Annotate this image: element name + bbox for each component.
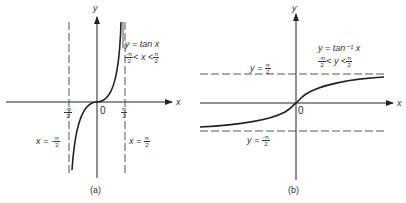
function-label-b: y = tan⁻¹ x bbox=[318, 44, 360, 53]
tick-left-a: -π2 bbox=[64, 106, 72, 119]
diagram-canvas bbox=[0, 0, 406, 203]
panel-b-graph bbox=[200, 14, 393, 180]
y-axis-label-b: y bbox=[292, 4, 297, 13]
asymptote-bottom-label-b: y = -π2 bbox=[247, 134, 270, 147]
arctan-curve bbox=[200, 77, 384, 127]
asymptote-top-label-b: y = π2 bbox=[250, 62, 271, 75]
origin-label-b: 0 bbox=[298, 106, 304, 116]
x-axis-label-a: x bbox=[176, 98, 181, 107]
asymptote-right-label-a: x = π2 bbox=[129, 135, 150, 148]
domain-label-b: -π2< y <π2 bbox=[318, 55, 352, 68]
tick-right-a: π2 bbox=[121, 106, 127, 119]
domain-label-a: -π2< x <π2 bbox=[125, 51, 159, 64]
caption-a: (a) bbox=[90, 185, 101, 195]
x-axis-label-b: x bbox=[397, 99, 402, 108]
asymptote-left-label-a: x = -π2 bbox=[36, 135, 60, 148]
function-label-a: y = tan x bbox=[125, 40, 159, 49]
y-axis-label-a: y bbox=[93, 4, 98, 13]
origin-label-a: 0 bbox=[100, 106, 106, 116]
caption-b: (b) bbox=[288, 185, 299, 195]
